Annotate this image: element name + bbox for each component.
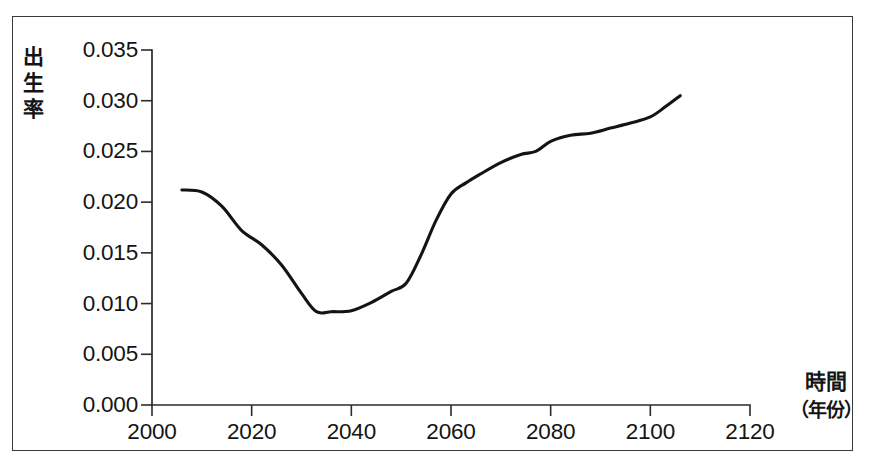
- figure-container: 出 生 率 時間 （年份） 0.0000.0050.0100.0150.0200…: [0, 0, 870, 474]
- plot-area: [0, 0, 870, 474]
- data-series-group: [182, 96, 680, 313]
- axis-lines: [152, 50, 750, 405]
- series-line: [182, 96, 680, 313]
- x-tick-marks: [152, 405, 750, 416]
- y-tick-marks: [141, 50, 152, 405]
